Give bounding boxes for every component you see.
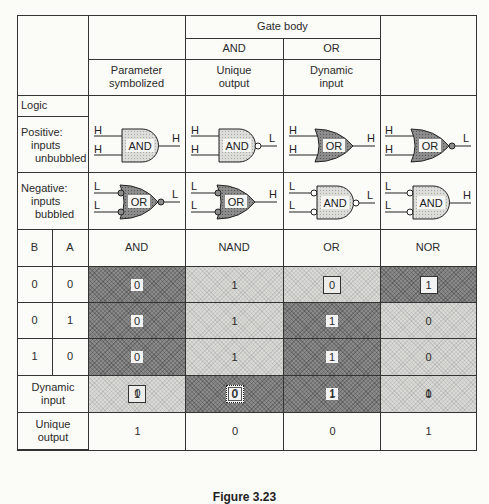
svg-text:L: L: [172, 188, 178, 200]
col-and-header: AND: [88, 229, 185, 266]
row0-b: 0: [17, 266, 52, 302]
row1-a: 1: [52, 302, 88, 338]
row2-nor-value: 0: [423, 351, 435, 363]
col-a-header: A: [52, 229, 88, 266]
gate-positive-nand: H H AND L: [185, 116, 283, 172]
gate-positive-and: H H AND H: [88, 116, 185, 172]
dynamic-input-or: 1: [284, 375, 381, 412]
label-positive-sub2: unbubbled: [21, 152, 88, 165]
row1-and-value: 0: [131, 315, 143, 327]
bubbled-and-gate-icon: L L AND L: [287, 178, 377, 224]
row2-and-value: 0: [131, 351, 143, 363]
bubbled-or-gate-icon: L L OR L: [92, 178, 182, 224]
and-gate-icon: H H AND H: [92, 122, 182, 166]
bubbled-or-gate-icon: L L OR H: [189, 178, 279, 224]
row2-or-cell: 1: [284, 339, 380, 375]
svg-text:OR: OR: [422, 140, 439, 152]
label-unique-output: Unique output: [17, 412, 89, 450]
gate-negative-or: L L OR H: [185, 172, 283, 229]
row0-nand-cell: 1: [186, 267, 283, 302]
row1-nor-value: 0: [423, 315, 435, 327]
nor-gate-icon: H H OR L: [383, 122, 473, 166]
header-or: OR: [283, 38, 380, 59]
row1-nor-cell: 0: [381, 303, 476, 338]
dynamic-input-nor: 1: [381, 375, 476, 412]
row0-and-cell: 0: [89, 267, 185, 302]
label-positive: Positive: inputs unbubbled: [17, 116, 88, 172]
gate-negative-or-bubbled-out: L L OR L: [88, 172, 185, 229]
label-positive-sub1: inputs: [21, 139, 88, 152]
row2-a: 0: [52, 338, 88, 375]
unique-output-and: 1: [89, 412, 186, 450]
label-logic: Logic: [17, 95, 88, 116]
row1-b: 0: [17, 302, 52, 338]
svg-text:H: H: [94, 124, 102, 136]
row0-or-cell: 0: [284, 267, 380, 302]
row1-or-cell: 1: [284, 303, 380, 338]
gate-positive-or: H H OR H: [283, 116, 380, 172]
gate-negative-and-bubbled-out: L L AND L: [283, 172, 380, 229]
header-gate-body: Gate body: [185, 15, 380, 38]
nand-gate-icon: H H AND L: [189, 122, 279, 166]
row0-nand-value: 1: [229, 279, 241, 291]
unique-output-nor: 1: [381, 412, 476, 450]
col-nor-header: NOR: [380, 229, 476, 266]
row2-nor-cell: 0: [381, 339, 476, 375]
row1-nand-value: 1: [229, 315, 241, 327]
svg-text:OR: OR: [325, 140, 342, 152]
row0-a: 0: [52, 266, 88, 302]
label-negative-title: Negative:: [21, 182, 88, 195]
row1-nand-cell: 1: [186, 303, 283, 338]
col-nand-header: NAND: [185, 229, 283, 266]
label-negative: Negative: inputs bubbled: [17, 172, 88, 229]
svg-text:L: L: [191, 199, 197, 211]
svg-text:H: H: [367, 132, 375, 144]
svg-text:L: L: [289, 180, 295, 192]
svg-text:H: H: [289, 124, 297, 136]
or-gate-icon: H H OR H: [287, 122, 377, 166]
svg-text:H: H: [191, 143, 199, 155]
svg-text:L: L: [385, 180, 391, 192]
header-unique-output: Unique output: [185, 59, 283, 95]
gate-positive-nor: H H OR L: [380, 116, 476, 172]
unique-output-or: 0: [284, 412, 381, 450]
label-positive-title: Positive:: [21, 126, 88, 139]
header-dynamic-input: Dynamic input: [283, 59, 380, 95]
svg-text:AND: AND: [128, 140, 151, 152]
row2-and-cell: 0: [89, 339, 185, 375]
label-negative-sub2: bubbled: [21, 208, 88, 221]
svg-text:L: L: [191, 180, 197, 192]
svg-text:L: L: [463, 132, 469, 144]
row2-nand-value: 1: [229, 351, 241, 363]
gate-negative-and: L L AND H: [380, 172, 476, 229]
dynamic-input-nand: 0: [186, 375, 284, 412]
svg-text:H: H: [289, 143, 297, 155]
svg-text:H: H: [269, 188, 277, 200]
col-or-header: OR: [283, 229, 380, 266]
svg-text:AND: AND: [323, 197, 346, 209]
svg-text:H: H: [172, 132, 180, 144]
dynamic-input-and: 0: [89, 375, 186, 412]
svg-text:L: L: [94, 199, 100, 211]
row2-b: 1: [17, 338, 52, 375]
row2-nand-cell: 1: [186, 339, 283, 375]
svg-text:L: L: [94, 180, 100, 192]
svg-text:AND: AND: [419, 197, 442, 209]
unique-output-nand: 0: [186, 412, 284, 450]
svg-text:L: L: [385, 199, 391, 211]
svg-text:H: H: [385, 143, 393, 155]
col-b-header: B: [17, 229, 52, 266]
header-and: AND: [185, 38, 283, 59]
label-dynamic-input: Dynamic input: [17, 375, 89, 412]
svg-text:H: H: [94, 143, 102, 155]
svg-text:L: L: [367, 189, 373, 201]
svg-text:L: L: [269, 132, 275, 144]
svg-text:H: H: [191, 124, 199, 136]
svg-text:OR: OR: [130, 196, 147, 208]
figure-caption: Figure 3.23: [0, 490, 489, 504]
svg-text:OR: OR: [228, 196, 245, 208]
svg-text:H: H: [385, 124, 393, 136]
row1-and-cell: 0: [89, 303, 185, 338]
row1-or-value: 1: [326, 315, 338, 327]
label-negative-sub1: inputs: [21, 195, 88, 208]
